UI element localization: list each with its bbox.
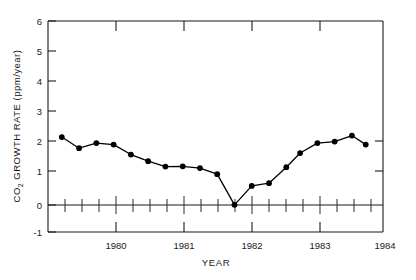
y-axis-title-prefix: CO	[11, 187, 22, 202]
y-tick-label-1: 1	[37, 166, 42, 177]
data-point	[145, 158, 151, 164]
co2-growth-rate-line-chart: 6 5 4 3 2 1 0 -1	[0, 0, 416, 280]
y-tick-labels: 6 5 4 3 2 1 0 -1	[34, 16, 42, 238]
y-tick-label-6: 6	[37, 16, 42, 27]
data-point	[111, 142, 117, 148]
data-point	[283, 164, 289, 170]
series-polyline	[62, 136, 366, 205]
data-point	[249, 183, 255, 189]
x-tick-label-1984: 1984	[374, 240, 395, 251]
y-tick-label-2: 2	[37, 136, 42, 147]
data-point	[232, 202, 238, 208]
data-point	[297, 150, 303, 156]
chart-figure: 6 5 4 3 2 1 0 -1	[0, 0, 416, 280]
plot-frame	[48, 21, 383, 232]
x-axis-ticks-bottom	[116, 222, 320, 232]
data-point	[349, 133, 355, 139]
data-point	[180, 163, 186, 169]
y-tick-label-5: 5	[37, 46, 42, 57]
y-axis-title-suffix: GROWTH RATE (ppm/year)	[11, 50, 22, 183]
x-axis-ticks-top	[116, 21, 320, 31]
data-point	[93, 140, 99, 146]
data-point	[314, 140, 320, 146]
data-point	[332, 139, 338, 145]
x-tick-label-1980: 1980	[105, 240, 126, 251]
data-point	[59, 134, 65, 140]
x-tick-label-1981: 1981	[173, 240, 194, 251]
y-axis-title: CO2 GROWTH RATE (ppm/year)	[11, 50, 24, 203]
y-tick-label-3: 3	[37, 106, 42, 117]
x-tick-label-1982: 1982	[241, 240, 262, 251]
x-axis-title: YEAR	[202, 257, 230, 268]
svg-text:CO2 GROWTH RATE (ppm/year): CO2 GROWTH RATE (ppm/year)	[11, 50, 24, 203]
data-point	[266, 180, 272, 186]
y-tick-label-0: 0	[37, 200, 42, 211]
y-axis-ticks	[48, 21, 383, 232]
y-tick-label-minus1: -1	[34, 227, 42, 238]
x-tick-label-1983: 1983	[309, 240, 330, 251]
data-point	[128, 152, 134, 158]
data-point	[163, 164, 169, 170]
data-point	[197, 165, 203, 171]
x-tick-labels: 1980 1981 1982 1983 1984	[105, 240, 395, 251]
data-series-co2-growth-rate	[59, 133, 369, 208]
data-point	[214, 171, 220, 177]
y-tick-label-4: 4	[37, 76, 42, 87]
data-point	[76, 145, 82, 151]
data-point	[363, 142, 369, 148]
